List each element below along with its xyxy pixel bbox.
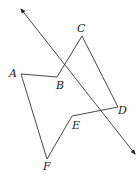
label-c: C bbox=[77, 22, 86, 35]
label-e: E bbox=[71, 119, 80, 132]
polygon-abcdef bbox=[21, 36, 118, 159]
geometry-diagram: A B C D E F bbox=[0, 0, 137, 181]
label-b: B bbox=[55, 79, 64, 92]
label-d: D bbox=[117, 104, 127, 117]
label-f: F bbox=[42, 160, 51, 173]
label-a: A bbox=[8, 67, 17, 80]
